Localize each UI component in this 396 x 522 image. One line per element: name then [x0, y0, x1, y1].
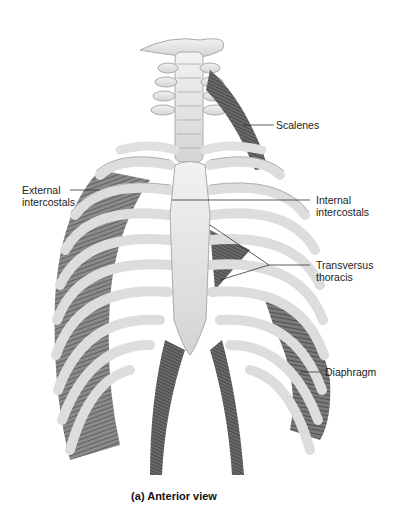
label-line: intercostals — [316, 206, 369, 218]
label-line: Internal — [316, 194, 369, 206]
label-scalenes: Scalenes — [276, 119, 319, 131]
label-line: thoracis — [316, 271, 373, 283]
caption-text: (a) Anterior view — [131, 490, 217, 502]
label-transversus-thoracis: Transversus thoracis — [316, 259, 373, 283]
label-line: intercostals — [22, 196, 75, 208]
rib-cage-diagram: Scalenes External intercostals Internal … — [0, 0, 396, 522]
figure-caption: (a) Anterior view — [0, 490, 396, 502]
sternum — [170, 162, 210, 356]
label-internal-intercostals: Internal intercostals — [316, 194, 369, 218]
label-diaphragm: Diaphragm — [325, 366, 376, 378]
label-line: Transversus — [316, 259, 373, 271]
scalenes-muscle — [206, 70, 268, 170]
diaphragm-crura — [150, 340, 244, 475]
label-line: External — [22, 184, 75, 196]
label-external-intercostals: External intercostals — [22, 184, 75, 208]
